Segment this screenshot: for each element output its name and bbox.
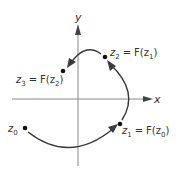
x-axis-arrow-icon <box>143 96 153 102</box>
iteration-diagram: x y z0 z1=F(z0) z2=F(z1) <box>0 0 179 172</box>
label-z2: z2=F(z1) <box>109 47 157 61</box>
x-axis-label: x <box>153 93 161 106</box>
label-z1: z1=F(z0) <box>121 125 169 139</box>
points <box>23 55 123 131</box>
arrow-z1-z2 <box>110 64 129 120</box>
y-axis-arrow-icon <box>75 24 81 35</box>
axes: x y <box>12 11 161 166</box>
label-z0: z0 <box>7 123 18 137</box>
point-labels: z0 z1=F(z0) z2=F(z1) z3=F(z2) <box>7 47 169 139</box>
arrowhead-z2-z3-icon <box>67 58 76 68</box>
point-z2 <box>103 55 108 60</box>
y-axis-label: y <box>74 11 82 24</box>
point-z0 <box>23 126 28 131</box>
arrow-z0-z1 <box>28 128 114 148</box>
point-z3 <box>61 69 66 74</box>
label-z3: z3=F(z2) <box>15 74 63 88</box>
